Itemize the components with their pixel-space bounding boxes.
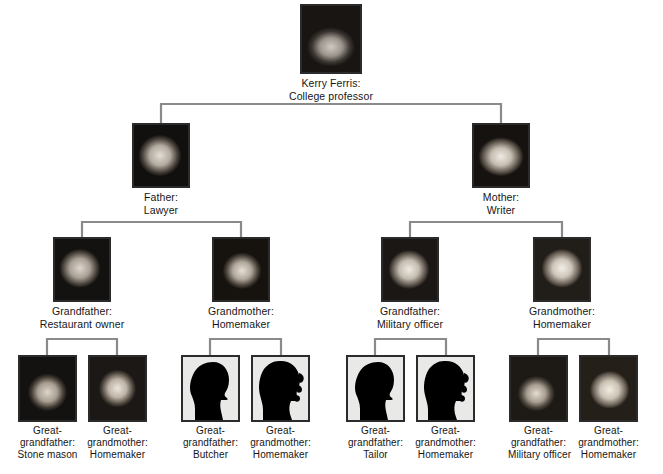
person-great-grandfather-tailor[interactable]: Great- grandfather: Tailor [345, 355, 406, 461]
person-name-line1: Great- [250, 425, 311, 437]
photo-grandmother-maternal [533, 237, 591, 302]
photo-kerry-ferris [300, 4, 362, 74]
label-grandfather-paternal: Grandfather: Restaurant owner [24, 305, 140, 330]
person-name-line1: Great- [415, 425, 476, 437]
person-great-grandmother-homemaker-4[interactable]: Great- grandmother: Homemaker [578, 355, 639, 461]
person-father[interactable]: Father: Lawyer [121, 123, 201, 216]
person-name: Mother: [461, 191, 541, 204]
person-name-line2: grandmother: [250, 437, 311, 449]
person-role: Stone mason [17, 449, 78, 461]
label-grandmother-paternal: Grandmother: Homemaker [191, 305, 291, 330]
person-role: College professor [281, 90, 381, 103]
person-name-line2: grandfather: [508, 437, 569, 449]
person-grandmother-maternal[interactable]: Grandmother: Homemaker [512, 237, 612, 330]
person-name-line2: grandmother: [415, 437, 476, 449]
photo-great-grandmother-homemaker-4 [579, 355, 638, 422]
person-great-grandmother-homemaker-2[interactable]: Great- grandmother: Homemaker [250, 355, 311, 461]
label-great-grandfather-tailor: Great- grandfather: Tailor [345, 425, 406, 461]
person-role: Homemaker [578, 449, 639, 461]
silhouette-male-tailor [346, 355, 405, 422]
person-name: Grandmother: [512, 305, 612, 318]
connector-mother-to-grandparents [410, 222, 562, 237]
photo-great-grandfather-stone-mason [18, 355, 77, 422]
person-role: Restaurant owner [24, 318, 140, 331]
person-great-grandmother-homemaker-3[interactable]: Great- grandmother: Homemaker [415, 355, 476, 461]
person-role: Homemaker [191, 318, 291, 331]
label-mother: Mother: Writer [461, 191, 541, 216]
person-name-line1: Great- [345, 425, 406, 437]
person-name: Grandfather: [355, 305, 465, 318]
connector-grandparents-to-greatgrandparents-4 [538, 339, 609, 355]
silhouette-female-homemaker-2 [251, 355, 310, 422]
connector-grandparents-to-greatgrandparents-1 [47, 339, 117, 355]
label-great-grandfather-butcher: Great- grandfather: Butcher [180, 425, 241, 461]
connector-grandparents-to-greatgrandparents-3 [375, 339, 446, 355]
person-name-line2: grandmother: [578, 437, 639, 449]
silhouette-male-butcher [181, 355, 240, 422]
person-name-line1: Great- [17, 425, 78, 437]
person-name-line2: grandfather: [345, 437, 406, 449]
person-great-grandfather-military-officer[interactable]: Great- grandfather: Military officer [508, 355, 569, 461]
photo-great-grandmother-homemaker-1 [88, 355, 147, 422]
female-silhouette-icon [253, 357, 308, 420]
photo-grandfather-paternal [53, 237, 111, 302]
label-grandmother-maternal: Grandmother: Homemaker [512, 305, 612, 330]
person-name: Kerry Ferris: [281, 77, 381, 90]
person-role: Tailor [345, 449, 406, 461]
female-silhouette-icon [418, 357, 473, 420]
person-name-line2: grandfather: [17, 437, 78, 449]
connector-father-to-grandparents [82, 222, 241, 237]
person-name: Father: [121, 191, 201, 204]
male-silhouette-icon [183, 357, 238, 420]
person-grandmother-paternal[interactable]: Grandmother: Homemaker [191, 237, 291, 330]
person-role: Butcher [180, 449, 241, 461]
person-name-line1: Great- [180, 425, 241, 437]
person-role: Lawyer [121, 204, 201, 217]
person-name: Grandmother: [191, 305, 291, 318]
family-tree-diagram: Kerry Ferris: College professor Father: … [0, 0, 663, 474]
photo-great-grandfather-military-officer [509, 355, 568, 422]
connector-kerry-to-parents [161, 104, 501, 123]
person-name-line2: grandfather: [180, 437, 241, 449]
photo-grandfather-maternal [381, 237, 439, 302]
photo-mother [472, 123, 530, 188]
photo-grandmother-paternal [212, 237, 270, 302]
label-kerry-ferris: Kerry Ferris: College professor [281, 77, 381, 102]
person-role: Homemaker [87, 449, 148, 461]
label-father: Father: Lawyer [121, 191, 201, 216]
person-name-line1: Great- [578, 425, 639, 437]
label-great-grandmother-homemaker-4: Great- grandmother: Homemaker [578, 425, 639, 461]
person-role: Homemaker [512, 318, 612, 331]
label-great-grandmother-homemaker-3: Great- grandmother: Homemaker [415, 425, 476, 461]
person-role: Homemaker [250, 449, 311, 461]
person-kerry-ferris[interactable]: Kerry Ferris: College professor [281, 4, 381, 102]
person-grandfather-paternal[interactable]: Grandfather: Restaurant owner [24, 237, 140, 330]
person-name: Grandfather: [24, 305, 140, 318]
male-silhouette-icon [348, 357, 403, 420]
person-grandfather-maternal[interactable]: Grandfather: Military officer [355, 237, 465, 330]
person-name-line1: Great- [87, 425, 148, 437]
label-great-grandmother-homemaker-2: Great- grandmother: Homemaker [250, 425, 311, 461]
person-role: Military officer [355, 318, 465, 331]
silhouette-female-homemaker-3 [416, 355, 475, 422]
label-great-grandfather-military-officer: Great- grandfather: Military officer [508, 425, 569, 461]
connector-grandparents-to-greatgrandparents-2 [210, 339, 281, 355]
person-role: Writer [461, 204, 541, 217]
person-great-grandfather-stone-mason[interactable]: Great- grandfather: Stone mason [17, 355, 78, 461]
person-great-grandmother-homemaker-1[interactable]: Great- grandmother: Homemaker [87, 355, 148, 461]
person-mother[interactable]: Mother: Writer [461, 123, 541, 216]
person-great-grandfather-butcher[interactable]: Great- grandfather: Butcher [180, 355, 241, 461]
person-role: Military officer [508, 449, 569, 461]
person-name-line2: grandmother: [87, 437, 148, 449]
person-role: Homemaker [415, 449, 476, 461]
label-grandfather-maternal: Grandfather: Military officer [355, 305, 465, 330]
person-name-line1: Great- [508, 425, 569, 437]
label-great-grandfather-stone-mason: Great- grandfather: Stone mason [17, 425, 78, 461]
photo-father [132, 123, 190, 188]
label-great-grandmother-homemaker-1: Great- grandmother: Homemaker [87, 425, 148, 461]
